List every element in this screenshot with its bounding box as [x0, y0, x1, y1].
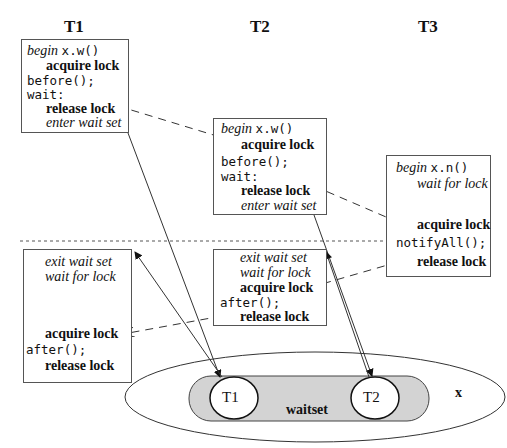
waitset-label: waitset	[286, 402, 328, 418]
acquire-lock-step: acquire lock	[240, 280, 313, 296]
method-call: x.w()	[62, 43, 100, 58]
begin-keyword: begin	[396, 160, 427, 175]
t3-notify-call-box: begin x.n() wait for lock acquire lock n…	[386, 155, 491, 277]
exit-wait-set-step: exit wait set	[240, 250, 307, 266]
begin-keyword: begin	[221, 121, 252, 136]
t1-wait-call-box: begin x.w() acquire lock before(); wait:…	[21, 39, 129, 133]
acquire-lock-step: acquire lock	[45, 326, 118, 342]
enter-wait-set-step: enter wait set	[241, 198, 316, 214]
wait-for-lock-step: wait for lock	[240, 265, 311, 281]
waitset-member-t2-label: T2	[363, 389, 380, 406]
release-lock-step: release lock	[417, 254, 486, 270]
begin-keyword: begin	[27, 43, 58, 58]
acquire-lock-step: acquire lock	[417, 217, 490, 233]
waitset-member-t1-label: T1	[222, 389, 239, 406]
thread-title-t2: T2	[250, 17, 270, 37]
method-call: x.n()	[431, 160, 469, 175]
t2-resume-box: exit wait set wait for lock acquire lock…	[213, 249, 327, 326]
release-lock-step: release lock	[240, 309, 309, 325]
acquire-lock-step: acquire lock	[241, 137, 314, 153]
release-lock-step: release lock	[241, 183, 310, 199]
wait-for-lock-step: wait for lock	[417, 176, 488, 192]
acquire-lock-step: acquire lock	[46, 58, 119, 74]
lock-handoff-t2-to-t1	[123, 316, 222, 334]
t1-exit-waitset-line	[135, 252, 222, 377]
enter-wait-set-step: enter wait set	[46, 115, 121, 131]
begin-line: begin x.n()	[396, 160, 468, 176]
t1-resume-box: exit wait set wait for lock acquire lock…	[23, 249, 132, 383]
after-call: after();	[26, 342, 86, 358]
method-call: x.w()	[256, 121, 294, 136]
exit-wait-set-step: exit wait set	[45, 254, 112, 270]
begin-line: begin x.w()	[221, 121, 293, 137]
thread-title-t1: T1	[64, 17, 84, 37]
object-name-label: x	[455, 385, 462, 401]
t2-wait-call-box: begin x.w() acquire lock before(); wait:…	[213, 118, 327, 215]
wait-for-lock-step: wait for lock	[45, 269, 116, 285]
thread-title-t3: T3	[418, 17, 438, 37]
before-call: before();	[221, 154, 289, 170]
begin-line: begin x.w()	[27, 43, 99, 59]
t1-enter-waitset-line	[128, 133, 220, 377]
release-lock-step: release lock	[45, 358, 114, 374]
notify-all-call: notifyAll();	[396, 235, 486, 251]
